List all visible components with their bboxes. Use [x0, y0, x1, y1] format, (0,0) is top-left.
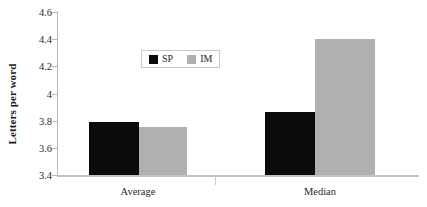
bar-average-im: [139, 127, 187, 175]
black-square-swatch-icon: [149, 55, 158, 64]
bar-median-im: [315, 39, 375, 175]
x-category-label-median: Median: [270, 186, 370, 197]
legend-entry-im: IM: [187, 54, 212, 64]
chart-legend: SP IM: [141, 50, 220, 68]
plot-area: [0, 0, 427, 207]
bar-average-sp: [89, 122, 139, 175]
legend-label-im: IM: [200, 54, 212, 64]
bar-chart-figure: Letters per word 3.4 3.6 3.8 4 4.2 4.4 4…: [0, 0, 427, 207]
bar-median-sp: [265, 112, 315, 175]
gray-square-swatch-icon: [187, 55, 196, 64]
legend-label-sp: SP: [162, 54, 173, 64]
x-category-label-average: Average: [88, 186, 188, 197]
legend-entry-sp: SP: [149, 54, 173, 64]
